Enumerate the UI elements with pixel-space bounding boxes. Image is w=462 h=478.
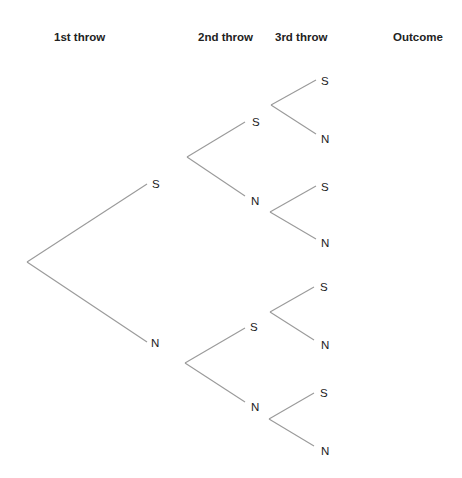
branch-3rd-throw-s [271, 80, 316, 105]
node-label-3rd-throw: N [321, 445, 329, 457]
node-label-3rd-throw: S [320, 387, 328, 399]
branch-2nd-throw-n [185, 363, 245, 402]
branch-1st-throw-n [27, 262, 147, 342]
branch-2nd-throw-s [187, 122, 245, 157]
node-label-3rd-throw: N [321, 339, 329, 351]
node-label-2nd-throw: S [250, 321, 258, 333]
branch-3rd-throw-n [271, 105, 316, 134]
node-label-2nd-throw: N [251, 195, 259, 207]
node-label-3rd-throw: N [321, 237, 329, 249]
branch-3rd-throw-n [270, 312, 314, 340]
node-label-1st-throw: S [152, 178, 160, 190]
branch-3rd-throw-s [270, 186, 316, 212]
branch-2nd-throw-n [187, 157, 245, 196]
node-label-3rd-throw: N [321, 133, 329, 145]
node-label-3rd-throw: S [320, 281, 328, 293]
probability-tree: SNSNSNSNSNSNSN [0, 0, 462, 478]
branch-3rd-throw-s [270, 287, 314, 312]
node-label-1st-throw: N [151, 337, 159, 349]
branch-1st-throw-s [27, 184, 147, 262]
branch-3rd-throw-n [270, 212, 316, 239]
node-label-2nd-throw: S [252, 116, 260, 128]
node-label-2nd-throw: N [251, 401, 259, 413]
branch-3rd-throw-n [269, 419, 314, 446]
branch-2nd-throw-s [185, 328, 245, 363]
node-label-3rd-throw: S [321, 75, 329, 87]
node-label-3rd-throw: S [321, 181, 329, 193]
branch-3rd-throw-s [269, 393, 314, 419]
